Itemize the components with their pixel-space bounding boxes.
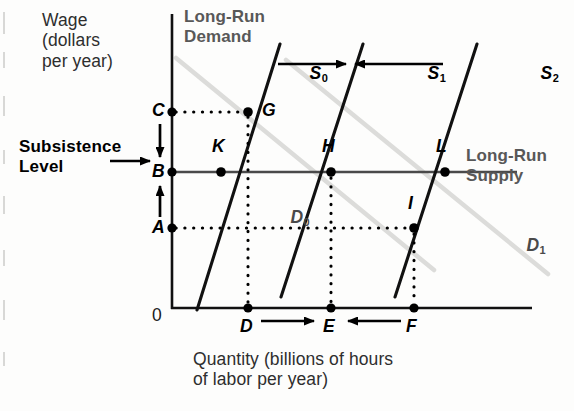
curve-tag-d1-letter: D xyxy=(526,235,539,255)
point-dot-b xyxy=(167,167,176,176)
point-dot-a xyxy=(167,223,176,232)
curve-tag-s2: S2 xyxy=(521,43,558,104)
curve-tag-s2-letter: S xyxy=(540,63,552,83)
long-run-supply-label: Long-Run Supply xyxy=(466,146,547,185)
point-dot-i xyxy=(409,223,419,233)
y-axis-label: Wage (dollars per year) xyxy=(42,10,113,71)
point-label-l: L xyxy=(436,136,447,156)
x-axis-label: Quantity (billions of hours of labor per… xyxy=(193,349,393,390)
subsistence-level-callout: Subsistence Level xyxy=(19,137,121,176)
point-dot-h xyxy=(326,167,336,177)
point-dot-k xyxy=(216,167,226,177)
point-label-a: A xyxy=(152,217,165,237)
point-dot-c xyxy=(167,107,176,116)
curve-tag-d0: D0 xyxy=(271,187,309,248)
curve-tag-d0-letter: D xyxy=(290,207,303,227)
point-dot-d xyxy=(243,303,252,312)
point-label-d: D xyxy=(240,316,253,336)
figure-root: Wage (dollars per year) Quantity (billio… xyxy=(0,0,574,411)
point-dot-g xyxy=(243,107,253,117)
curve-tag-s0: S0 xyxy=(290,43,327,104)
curve-tag-s0-letter: S xyxy=(309,63,321,83)
point-label-g: G xyxy=(262,100,276,120)
point-label-e: E xyxy=(323,316,335,336)
point-dot-l xyxy=(440,167,450,177)
point-label-k: K xyxy=(212,136,225,156)
point-label-b: B xyxy=(152,161,165,181)
curve-tag-s1: S1 xyxy=(408,43,445,104)
curve-tag-d1: D1 xyxy=(507,215,545,276)
curve-tag-s2-subscript: 2 xyxy=(553,72,559,84)
curve-tag-d0-subscript: 0 xyxy=(304,216,310,228)
curve-tag-s1-subscript: 1 xyxy=(440,72,446,84)
point-label-h: H xyxy=(322,136,335,156)
point-label-f: F xyxy=(406,316,417,336)
origin-label: 0 xyxy=(152,305,162,325)
point-dot-f xyxy=(409,303,418,312)
point-label-i: I xyxy=(408,193,413,213)
point-dot-e xyxy=(326,303,335,312)
curve-tag-s1-letter: S xyxy=(427,63,439,83)
curve-tag-s0-subscript: 0 xyxy=(322,72,328,84)
curve-tag-d1-subscript: 1 xyxy=(540,244,546,256)
point-label-c: C xyxy=(152,100,165,120)
long-run-demand-label: Long-Run Demand xyxy=(184,7,265,46)
